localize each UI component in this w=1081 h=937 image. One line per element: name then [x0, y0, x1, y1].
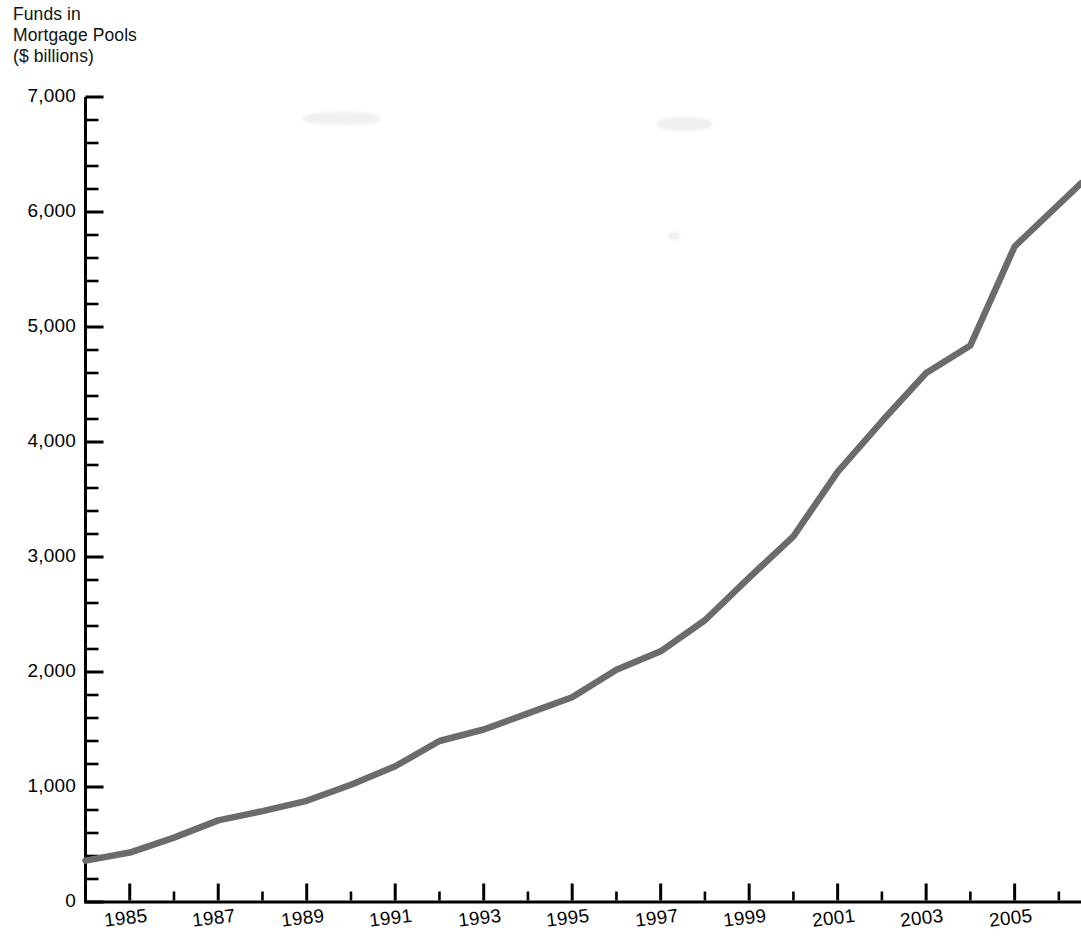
axes — [84, 97, 1081, 903]
x-axis-ticks — [86, 884, 1059, 901]
y-tick-label-5000: 5,000 — [0, 315, 76, 337]
y-tick-label-3000: 3,000 — [0, 545, 76, 567]
y-tick-label-0: 0 — [0, 890, 76, 912]
chart-figure: Funds in Mortgage Pools ($ billions) 01,… — [0, 0, 1081, 937]
y-tick-label-6000: 6,000 — [0, 200, 76, 222]
y-tick-label-4000: 4,000 — [0, 430, 76, 452]
series-line-funds-in-mortgage-pools — [86, 183, 1081, 860]
plot-area: 01,0002,0003,0004,0005,0006,0007,000 198… — [0, 0, 1081, 937]
y-tick-label-2000: 2,000 — [0, 660, 76, 682]
chart-canvas — [0, 0, 1081, 937]
y-axis-ticks — [86, 97, 104, 902]
y-tick-label-1000: 1,000 — [0, 775, 76, 797]
y-tick-label-7000: 7,000 — [0, 85, 76, 107]
data-series-group — [86, 183, 1081, 860]
